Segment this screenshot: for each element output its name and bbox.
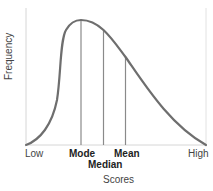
distribution-curve [26, 20, 206, 145]
x-axis-label: Scores [103, 174, 134, 185]
x-tick-high: High [188, 148, 209, 159]
median-label: Median [88, 159, 122, 170]
x-tick-low: Low [25, 148, 43, 159]
mean-label: Mean [114, 148, 140, 159]
skewed-distribution-chart: Frequency Low Mode Mean Median High Scor… [0, 0, 213, 191]
mode-label: Mode [69, 148, 95, 159]
y-axis-label: Frequency [3, 33, 14, 80]
